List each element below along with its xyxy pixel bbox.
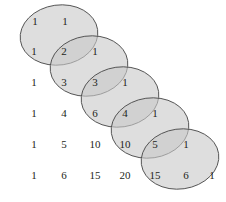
pascal-cell-r5-c6: 1 bbox=[209, 170, 215, 181]
pascals-triangle-figure: 11121133114641151010511615201561 bbox=[0, 0, 226, 202]
pascal-cell-r5-c4: 15 bbox=[150, 170, 161, 181]
pascal-cell-r4-c0: 1 bbox=[31, 139, 37, 150]
pascal-cell-r1-c2: 1 bbox=[92, 46, 98, 57]
pascal-cell-r5-c3: 20 bbox=[120, 170, 131, 181]
pascal-cell-r3-c1: 4 bbox=[61, 108, 67, 119]
pascal-cell-r4-c5: 1 bbox=[183, 139, 189, 150]
pascal-cell-r1-c1: 2 bbox=[61, 46, 67, 57]
pascal-cell-r3-c3: 4 bbox=[122, 108, 128, 119]
pascal-cell-r4-c2: 10 bbox=[90, 139, 101, 150]
pascal-cell-r2-c1: 3 bbox=[61, 77, 67, 88]
pascal-cell-r4-c1: 5 bbox=[61, 139, 67, 150]
pascal-cell-r0-c1: 1 bbox=[62, 16, 68, 27]
pascal-number-layer: 11121133114641151010511615201561 bbox=[0, 0, 226, 202]
pascal-cell-r4-c4: 5 bbox=[152, 139, 158, 150]
pascal-cell-r5-c1: 6 bbox=[61, 170, 67, 181]
pascal-cell-r3-c2: 6 bbox=[92, 108, 98, 119]
pascal-cell-r5-c5: 6 bbox=[183, 170, 189, 181]
pascal-cell-r3-c4: 1 bbox=[152, 108, 158, 119]
pascal-cell-r0-c0: 1 bbox=[32, 16, 38, 27]
pascal-cell-r1-c0: 1 bbox=[31, 46, 37, 57]
pascal-cell-r5-c2: 15 bbox=[90, 170, 101, 181]
pascal-cell-r4-c3: 10 bbox=[120, 139, 131, 150]
pascal-cell-r2-c2: 3 bbox=[92, 77, 98, 88]
pascal-cell-r2-c3: 1 bbox=[122, 77, 128, 88]
pascal-cell-r2-c0: 1 bbox=[31, 77, 37, 88]
pascal-cell-r3-c0: 1 bbox=[31, 108, 37, 119]
pascal-cell-r5-c0: 1 bbox=[31, 170, 37, 181]
